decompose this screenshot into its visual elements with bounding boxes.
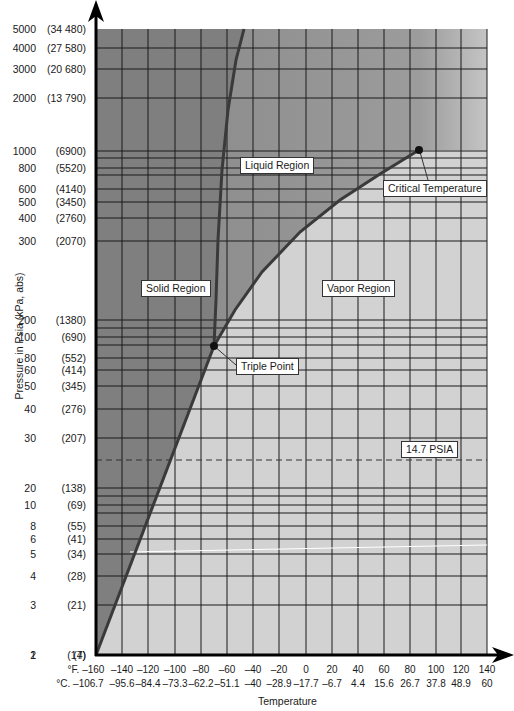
y-tick-kpa: (276): [38, 403, 86, 415]
y-tick-psia: 1000: [0, 145, 36, 157]
y-tick-kpa: (27 580): [38, 42, 86, 54]
x-tick-c: –17.7: [293, 678, 318, 690]
x-tick-f: 60: [378, 664, 389, 676]
y-tick-kpa: (4140): [38, 183, 86, 195]
liquid-region-label: Liquid Region: [240, 157, 314, 174]
y-tick-kpa: (414): [38, 364, 86, 376]
x-tick-f: –80: [193, 664, 210, 676]
x-tick-c: –62.2: [188, 678, 213, 690]
x-axis-title: Temperature: [258, 695, 317, 707]
x-tick-c: °C. –106.7: [56, 678, 103, 690]
y-tick-kpa: (5520): [38, 162, 86, 174]
solid-region-label: Solid Region: [141, 280, 211, 297]
y-tick-kpa: (138): [38, 482, 86, 494]
triple-point-label: Triple Point: [236, 358, 299, 375]
y-tick-psia: 4000: [0, 42, 36, 54]
x-tick-f: 120: [453, 664, 470, 676]
y-tick-psia: 4: [0, 570, 36, 582]
x-tick-f: –140: [111, 664, 133, 676]
x-tick-c: 60: [481, 678, 492, 690]
x-tick-c: –84.4: [135, 678, 160, 690]
y-tick-kpa: (345): [38, 380, 86, 392]
y-tick-psia: 2000: [0, 92, 36, 104]
critical-temperature-label: Critical Temperature: [383, 180, 487, 197]
y-tick-kpa: (41): [38, 533, 86, 545]
y-tick-psia: 10: [0, 499, 36, 511]
x-tick-f: 100: [428, 664, 445, 676]
y-tick-psia: 1: [0, 649, 36, 661]
x-tick-c: –73.3: [162, 678, 187, 690]
critical-point-marker: [415, 146, 423, 154]
y-tick-kpa: (55): [38, 520, 86, 532]
y-tick-psia: 5000: [0, 23, 36, 35]
x-tick-f: 0: [303, 664, 309, 676]
y-tick-kpa: (13 790): [38, 92, 86, 104]
y-tick-psia: 30: [0, 432, 36, 444]
y-tick-kpa: (34 480): [38, 23, 86, 35]
x-tick-c: 4.4: [351, 678, 365, 690]
y-tick-psia: 600: [0, 183, 36, 195]
vapor-region-label: Vapor Region: [322, 280, 395, 297]
y-tick-psia: 400: [0, 212, 36, 224]
x-tick-f: –60: [219, 664, 236, 676]
x-tick-c: 37.8: [426, 678, 445, 690]
y-tick-psia: 40: [0, 403, 36, 415]
x-tick-f: 40: [352, 664, 363, 676]
y-tick-kpa: (1380): [38, 314, 86, 326]
y-tick-psia: 5: [0, 548, 36, 560]
y-tick-psia: 20: [0, 482, 36, 494]
y-tick-kpa: (6900): [38, 145, 86, 157]
y-tick-kpa: (2070): [38, 235, 86, 247]
x-tick-c: 26.7: [400, 678, 419, 690]
y-tick-psia: 300: [0, 235, 36, 247]
y-tick-kpa: (207): [38, 432, 86, 444]
y-tick-psia: 800: [0, 162, 36, 174]
y-tick-kpa: (552): [38, 352, 86, 364]
x-tick-c: 48.9: [451, 678, 470, 690]
y-tick-kpa: (20 680): [38, 63, 86, 75]
x-tick-c: –28.9: [266, 678, 291, 690]
x-axis-ticks-fahrenheit: °F. –160–140–120–100–80–60–40–2002040608…: [0, 664, 514, 676]
y-tick-kpa: (34): [38, 548, 86, 560]
y-tick-psia: 3000: [0, 63, 36, 75]
y-tick-kpa: (690): [38, 331, 86, 343]
y-tick-kpa: (69): [38, 499, 86, 511]
y-tick-kpa: (7): [38, 649, 86, 661]
y-tick-kpa: (2760): [38, 212, 86, 224]
x-tick-f: –40: [245, 664, 262, 676]
y-tick-kpa: (28): [38, 570, 86, 582]
x-tick-f: °F. –160: [68, 664, 105, 676]
x-axis-ticks-celsius: °C. –106.7–95.6–84.4–73.3–62.2–51.1–40–2…: [0, 678, 514, 690]
x-tick-f: –20: [271, 664, 288, 676]
x-tick-c: –40: [245, 678, 262, 690]
x-tick-c: –95.6: [109, 678, 134, 690]
x-tick-f: –120: [137, 664, 159, 676]
y-tick-psia: 500: [0, 196, 36, 208]
x-tick-f: 80: [404, 664, 415, 676]
x-tick-c: 15.6: [374, 678, 393, 690]
x-tick-c: –6.7: [322, 678, 341, 690]
y-tick-psia: 3: [0, 599, 36, 611]
x-tick-f: 140: [479, 664, 496, 676]
x-tick-c: –51.1: [214, 678, 239, 690]
y-tick-kpa: (3450): [38, 196, 86, 208]
y-tick-psia: 8: [0, 520, 36, 532]
y-tick-psia: 6: [0, 533, 36, 545]
y-axis-title: Pressure in Psia (kPa, abs): [13, 271, 25, 401]
y-tick-kpa: (21): [38, 599, 86, 611]
x-tick-f: –100: [164, 664, 186, 676]
atmospheric-pressure-label: 14.7 PSIA: [401, 441, 458, 458]
x-tick-f: 20: [326, 664, 337, 676]
triple-point-marker: [210, 342, 218, 350]
